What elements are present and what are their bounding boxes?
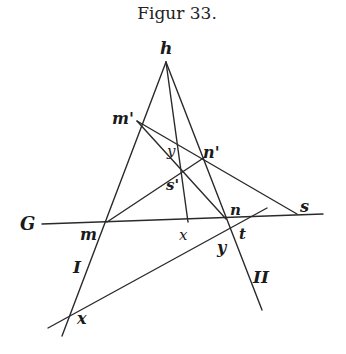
- label-x: x: [76, 309, 87, 328]
- label-s: s: [299, 197, 309, 216]
- label-n-prime: n': [203, 143, 220, 162]
- label-n: n: [230, 201, 241, 219]
- label-m-prime: m': [112, 109, 134, 128]
- label-m: m: [80, 225, 97, 244]
- label-h: h: [160, 38, 172, 58]
- line-m-prime-n: [137, 121, 226, 219]
- label-I: I: [72, 257, 82, 277]
- label-y-top: y: [166, 142, 176, 160]
- label-x-mid: x: [179, 226, 188, 244]
- label-G: G: [20, 213, 35, 234]
- label-s-prime: s': [166, 176, 179, 194]
- line-m-n-prime: [107, 157, 205, 222]
- geometric-diagram: h m' n' y s' G m x n s t y I II x: [0, 0, 346, 354]
- label-t: t: [239, 225, 246, 243]
- line-I: [62, 62, 166, 336]
- line-G: [42, 214, 323, 224]
- label-y: y: [216, 238, 228, 257]
- label-II: II: [252, 267, 270, 287]
- line-m-prime-s: [137, 121, 297, 214]
